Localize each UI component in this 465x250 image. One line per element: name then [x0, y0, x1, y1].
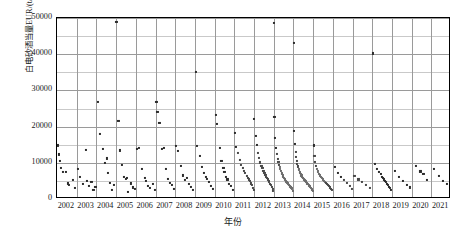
data-point [334, 166, 336, 168]
data-point [226, 178, 228, 180]
data-point [199, 155, 201, 157]
data-point [138, 147, 140, 149]
gridline-vertical [234, 18, 235, 197]
data-point [433, 168, 435, 170]
data-point [68, 184, 70, 186]
data-point [86, 179, 88, 181]
data-point [145, 180, 147, 182]
data-point [121, 164, 123, 166]
data-point [186, 177, 188, 179]
data-point [165, 168, 167, 170]
data-point [156, 111, 158, 113]
data-point [203, 172, 205, 174]
gridline-vertical [156, 18, 157, 197]
data-point [223, 171, 225, 173]
data-point [218, 147, 220, 149]
data-point [94, 186, 96, 188]
data-point [171, 184, 173, 186]
data-point [234, 132, 236, 134]
data-point [295, 156, 297, 158]
data-point [315, 165, 317, 167]
gridline-vertical [215, 18, 216, 197]
data-point [446, 183, 448, 185]
gridline-vertical [254, 18, 255, 197]
data-point [163, 147, 165, 149]
data-point [258, 157, 260, 159]
gridline-vertical [372, 18, 373, 197]
data-point [230, 185, 232, 187]
data-point [215, 114, 217, 116]
data-point [442, 179, 444, 181]
data-point [144, 177, 146, 179]
data-point [402, 180, 404, 182]
gridline-vertical [353, 18, 354, 197]
data-point [220, 160, 222, 162]
data-point [253, 189, 255, 191]
data-point [337, 172, 339, 174]
data-point [65, 171, 67, 173]
data-point [222, 167, 224, 169]
data-point [97, 101, 99, 103]
data-point [273, 22, 275, 24]
data-point [74, 187, 76, 189]
data-point [406, 183, 408, 185]
gridline-vertical [392, 18, 393, 197]
data-point [346, 182, 348, 184]
data-point [130, 182, 132, 184]
data-point [208, 181, 210, 183]
data-point [127, 191, 129, 193]
gridline-vertical [175, 18, 176, 197]
gridline-vertical [431, 18, 432, 197]
data-point [153, 189, 155, 191]
data-point [167, 178, 169, 180]
data-point [312, 190, 314, 192]
data-point [151, 183, 153, 185]
data-point [374, 162, 376, 164]
data-point [409, 186, 411, 188]
data-point [275, 147, 277, 149]
data-point [296, 160, 298, 162]
data-point [113, 184, 115, 186]
data-point [109, 182, 111, 184]
data-point [216, 123, 218, 125]
gridline-vertical [136, 18, 137, 197]
data-point [141, 168, 143, 170]
data-point [343, 179, 345, 181]
data-point [242, 167, 244, 169]
data-point [206, 178, 208, 180]
gridline-vertical [333, 18, 334, 197]
data-point [369, 187, 371, 189]
data-point [313, 155, 315, 157]
data-point [210, 185, 212, 187]
data-point [99, 133, 101, 135]
data-point [232, 189, 234, 191]
data-point [398, 176, 400, 178]
data-point [58, 153, 60, 155]
data-point [115, 21, 117, 23]
data-point [394, 170, 396, 172]
data-point [274, 137, 276, 139]
data-point [253, 118, 255, 120]
data-point [177, 150, 179, 152]
data-point [257, 152, 259, 154]
data-point [77, 168, 79, 170]
data-point [134, 188, 136, 190]
gridline-vertical [96, 18, 97, 197]
data-point [273, 116, 275, 118]
data-point [190, 186, 192, 188]
data-point [79, 176, 81, 178]
data-point [158, 122, 160, 124]
data-point [60, 167, 62, 169]
y-tick-label: 10000 [18, 158, 52, 166]
gridline-vertical [274, 18, 275, 197]
gridline-vertical [195, 18, 196, 197]
data-point [87, 185, 89, 187]
data-point [155, 101, 157, 103]
data-point [92, 189, 94, 191]
data-point [106, 157, 108, 159]
data-point [111, 189, 113, 191]
data-point [361, 181, 363, 183]
data-point [57, 144, 59, 146]
data-point [348, 185, 350, 187]
x-axis-title: 年份 [0, 215, 465, 228]
